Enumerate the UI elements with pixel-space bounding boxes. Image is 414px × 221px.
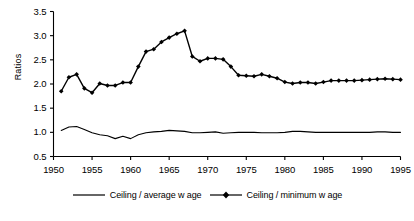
y-axis-tick-label: 1.5 bbox=[21, 102, 47, 113]
x-axis-tick-label: 1965 bbox=[152, 164, 186, 175]
legend-label-average: Ceiling / average w age bbox=[110, 190, 202, 200]
y-axis-tick-label: 2.5 bbox=[21, 54, 47, 65]
y-axis-tick-label: 3.5 bbox=[21, 6, 47, 17]
x-axis-tick-label: 1985 bbox=[306, 164, 340, 175]
y-axis-tick-label: 1.0 bbox=[21, 126, 47, 137]
x-axis-tick-label: 1980 bbox=[268, 164, 302, 175]
x-axis-tick-label: 1995 bbox=[384, 164, 414, 175]
series-line-0 bbox=[61, 127, 400, 139]
chart-legend: Ceiling / average w age Ceiling / minimu… bbox=[0, 190, 414, 200]
y-axis-tick-label: 3.0 bbox=[21, 30, 47, 41]
y-axis-tick-label: 2.0 bbox=[21, 78, 47, 89]
plot-area bbox=[0, 0, 414, 221]
legend-item-average[interactable]: Ceiling / average w age bbox=[72, 190, 202, 200]
legend-item-minimum[interactable]: Ceiling / minimum w age bbox=[209, 190, 343, 200]
legend-swatch-line-marker bbox=[209, 190, 243, 200]
series-line-1 bbox=[61, 31, 400, 93]
x-axis-tick-label: 1990 bbox=[345, 164, 379, 175]
chart-container: Ratios Ceiling / average w age Ceiling /… bbox=[0, 0, 414, 221]
legend-swatch-line bbox=[72, 190, 106, 200]
x-axis-tick-label: 1975 bbox=[229, 164, 263, 175]
y-axis-tick-label: 0.5 bbox=[21, 151, 47, 162]
x-axis-tick-label: 1970 bbox=[191, 164, 225, 175]
x-axis-tick-label: 1955 bbox=[75, 164, 109, 175]
legend-label-minimum: Ceiling / minimum w age bbox=[247, 190, 343, 200]
x-axis-tick-label: 1960 bbox=[114, 164, 148, 175]
x-axis-tick-label: 1950 bbox=[37, 164, 71, 175]
